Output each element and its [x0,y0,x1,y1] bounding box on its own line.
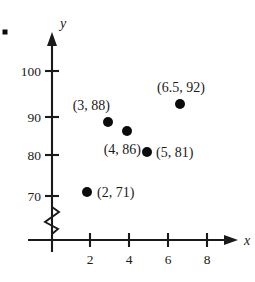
y-axis-label: y [58,16,67,31]
x-axis-arrowhead [224,235,238,245]
data-point-marker[interactable] [122,126,132,136]
x-axis-label: x [243,233,251,248]
scatter-plot-figure: y 100 90 80 70 x 2 4 6 8 (2, 71) [0,0,255,282]
data-point-label: (3, 88) [73,98,111,114]
x-tick-label-4: 4 [126,252,133,267]
plot-canvas: y 100 90 80 70 x 2 4 6 8 (2, 71) [0,0,255,282]
x-tick-label-2: 2 [87,252,94,267]
y-tick-label-100: 100 [21,64,42,79]
y-axis-arrowhead [47,32,57,46]
data-point-label: (2, 71) [97,185,135,201]
x-tick-label-8: 8 [204,252,211,267]
data-point-marker[interactable] [175,99,185,109]
data-point-label: (4, 86) [104,142,142,158]
data-point-label: (5, 81) [156,145,194,161]
corner-dot-mark [3,30,8,35]
data-point-marker[interactable] [82,187,92,197]
y-tick-label-70: 70 [28,189,42,204]
data-point-label: (6.5, 92) [157,80,205,96]
x-tick-label-6: 6 [165,252,172,267]
data-point-marker[interactable] [103,117,113,127]
y-tick-label-90: 90 [28,110,42,125]
y-tick-label-80: 80 [28,148,42,163]
data-point-marker[interactable] [142,147,152,157]
